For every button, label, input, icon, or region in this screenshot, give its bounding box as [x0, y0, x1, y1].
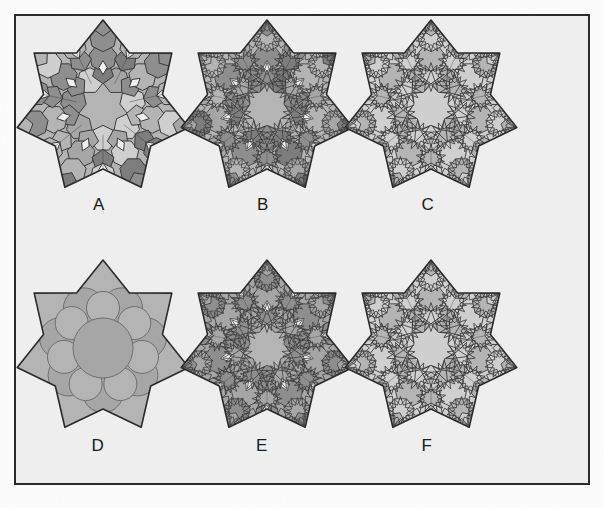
panel-label-c: C [398, 195, 458, 215]
panel-label-b: B [233, 195, 293, 215]
figure-plate-page: ABCDEF [0, 0, 604, 508]
panel-label-a: A [69, 195, 129, 215]
figure-panel-b [172, 16, 362, 206]
panel-label-f: F [397, 436, 457, 456]
figure-panel-e [172, 256, 362, 446]
panel-label-e: E [232, 436, 292, 456]
figure-panel-c [336, 16, 526, 206]
figure-panel-a [8, 16, 198, 206]
figure-panel-f [336, 256, 526, 446]
figure-panel-d [8, 256, 198, 446]
panel-label-d: D [68, 436, 128, 456]
